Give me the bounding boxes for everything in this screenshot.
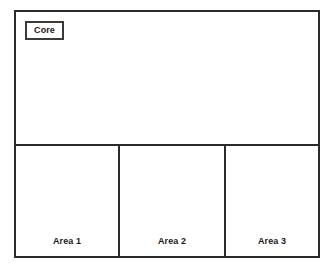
area-block-2: Area 2 <box>118 146 224 256</box>
area-block-1-label: Area 1 <box>53 237 81 246</box>
area-strip: Area 1 Area 2 Area 3 <box>16 146 318 256</box>
core-label-box: Core <box>25 21 64 40</box>
area-block-3: Area 3 <box>224 146 318 256</box>
system-boundary-rectangle: Core Area 1 Area 2 Area 3 <box>14 10 320 258</box>
area-block-2-label: Area 2 <box>158 237 186 246</box>
core-region: Core <box>16 12 318 144</box>
area-block-1: Area 1 <box>16 146 118 256</box>
core-label-text: Core <box>34 26 55 35</box>
area-block-3-label: Area 3 <box>258 237 286 246</box>
diagram-canvas: Core Area 1 Area 2 Area 3 <box>0 0 334 267</box>
